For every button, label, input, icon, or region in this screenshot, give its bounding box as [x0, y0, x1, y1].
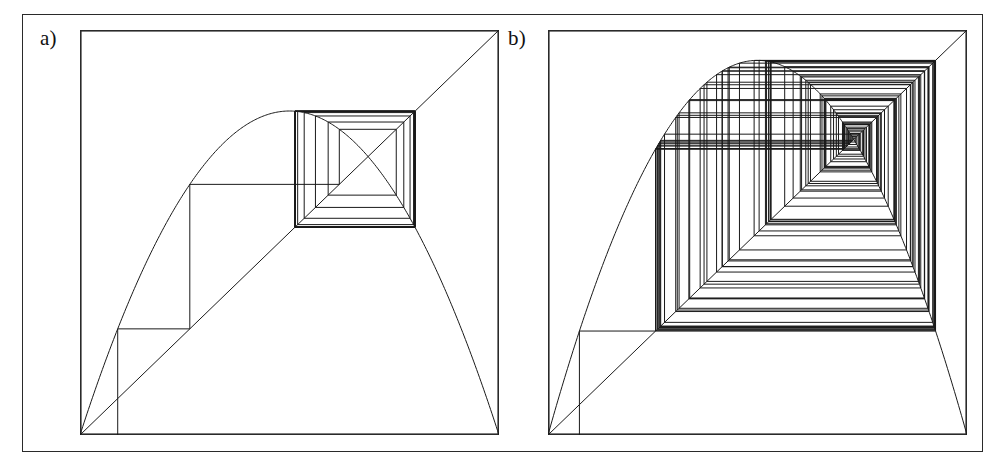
panel-a-plot [80, 30, 499, 435]
map-curve [548, 60, 967, 435]
panel-label-b: b) [508, 28, 526, 49]
figure-root: a) b) [0, 0, 1002, 468]
panel-label-a: a) [40, 28, 57, 49]
cobweb-svg-b [548, 30, 967, 435]
identity-line [80, 30, 499, 435]
map-curve [80, 111, 499, 435]
cobweb-svg-a [80, 30, 499, 435]
cobweb-orbit [579, 60, 935, 435]
panel-b-plot [548, 30, 967, 435]
identity-line [548, 30, 967, 435]
